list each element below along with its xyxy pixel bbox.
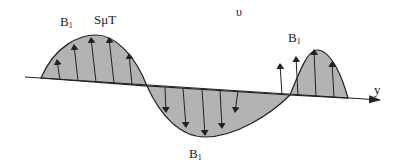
positive-lobe-2 [290,50,348,98]
label-amplitude: SμT [94,12,116,27]
label-symbol-top: υ [236,5,242,19]
label-b1-left: B1 [60,14,73,30]
negative-lobe [147,86,290,137]
label-b1-right: B1 [288,30,301,46]
label-axis-y: y [374,82,381,97]
wave-diagram: B1 SμT υ B1 B1 y [0,0,404,166]
label-b1-bottom: B1 [189,146,202,162]
